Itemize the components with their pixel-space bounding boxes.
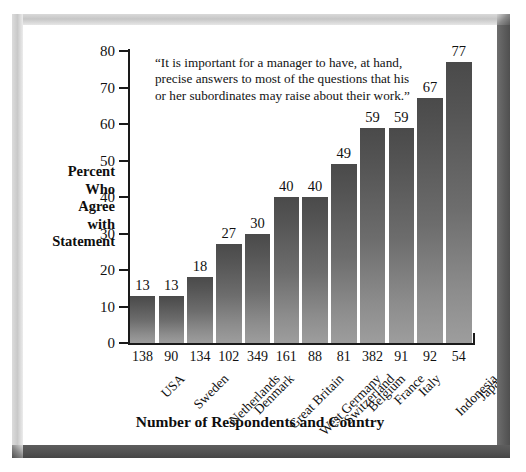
x-tick-respondent-count: 161 xyxy=(276,349,297,365)
x-axis-end-cap xyxy=(473,333,475,345)
y-tick-mark-20 xyxy=(119,269,128,271)
chart-canvas: PercentWhoAgreewithStatement “It is impo… xyxy=(23,25,497,445)
bar-value-label: 59 xyxy=(365,109,380,126)
y-tick-mark-80 xyxy=(119,50,128,52)
x-tick-respondent-count: 134 xyxy=(190,349,211,365)
x-tick-respondent-count: 138 xyxy=(132,349,153,365)
x-tick-respondent-count: 90 xyxy=(164,349,178,365)
plot-area: 80706050403020100 13138USA1390Sweden1813… xyxy=(128,51,473,343)
y-tick-label-40: 40 xyxy=(100,189,115,206)
bar[interactable]: 27 xyxy=(216,244,242,343)
bar[interactable]: 67 xyxy=(417,98,443,343)
bar-value-label: 27 xyxy=(222,225,237,242)
bar-value-label: 40 xyxy=(279,178,294,195)
frame-edge-bottom xyxy=(12,445,510,458)
x-tick-country-label: Sweden xyxy=(191,371,233,413)
x-axis-line xyxy=(128,343,475,345)
y-tick-mark-70 xyxy=(119,87,128,89)
x-tick-respondent-count: 382 xyxy=(362,349,383,365)
bar-value-label: 18 xyxy=(193,258,208,275)
y-tick-mark-10 xyxy=(119,306,128,308)
bar-value-label: 40 xyxy=(308,178,323,195)
y-tick-label-80: 80 xyxy=(100,43,115,60)
page-header-text xyxy=(60,0,260,9)
bar-value-label: 67 xyxy=(423,79,438,96)
bar[interactable]: 59 xyxy=(360,128,386,343)
y-tick-label-70: 70 xyxy=(100,79,115,96)
bar-value-label: 77 xyxy=(452,43,467,60)
y-tick-label-10: 10 xyxy=(100,298,115,315)
frame-edge-left xyxy=(12,14,23,458)
y-tick-label-20: 20 xyxy=(100,262,115,279)
bar[interactable]: 40 xyxy=(274,197,300,343)
figure-frame: PercentWhoAgreewithStatement “It is impo… xyxy=(12,14,510,458)
x-axis-title: Number of Respondents and Country xyxy=(23,413,497,431)
bar[interactable]: 13 xyxy=(130,296,156,343)
y-tick-mark-40 xyxy=(119,196,128,198)
x-tick-respondent-count: 54 xyxy=(452,349,466,365)
frame-bevel-top-right xyxy=(497,14,510,25)
x-tick-respondent-count: 102 xyxy=(218,349,239,365)
bar-value-label: 30 xyxy=(250,215,265,232)
x-tick-respondent-count: 88 xyxy=(308,349,322,365)
bar[interactable]: 59 xyxy=(389,128,415,343)
bar-value-label: 13 xyxy=(135,277,150,294)
y-tick-label-50: 50 xyxy=(100,152,115,169)
x-tick-respondent-count: 92 xyxy=(423,349,437,365)
frame-bevel-bottom-left xyxy=(12,445,23,458)
bar-value-label: 59 xyxy=(394,109,409,126)
bar[interactable]: 40 xyxy=(302,197,328,343)
y-tick-mark-60 xyxy=(119,123,128,125)
frame-edge-right xyxy=(497,14,510,458)
x-tick-respondent-count: 349 xyxy=(247,349,268,365)
x-tick-country-label: USA xyxy=(157,371,187,401)
y-tick-label-60: 60 xyxy=(100,116,115,133)
x-tick-respondent-count: 81 xyxy=(337,349,351,365)
bar-value-label: 13 xyxy=(164,277,179,294)
bar-value-label: 49 xyxy=(337,145,352,162)
y-tick-mark-30 xyxy=(119,233,128,235)
y-tick-mark-0 xyxy=(119,342,128,344)
x-tick-respondent-count: 91 xyxy=(394,349,408,365)
frame-edge-top xyxy=(12,14,510,25)
bar[interactable]: 77 xyxy=(446,62,472,343)
y-tick-mark-50 xyxy=(119,160,128,162)
bar[interactable]: 18 xyxy=(187,277,213,343)
bar[interactable]: 13 xyxy=(159,296,185,343)
bar[interactable]: 30 xyxy=(245,234,271,344)
y-tick-label-30: 30 xyxy=(100,225,115,242)
y-tick-label-0: 0 xyxy=(108,335,116,352)
bar[interactable]: 49 xyxy=(331,164,357,343)
